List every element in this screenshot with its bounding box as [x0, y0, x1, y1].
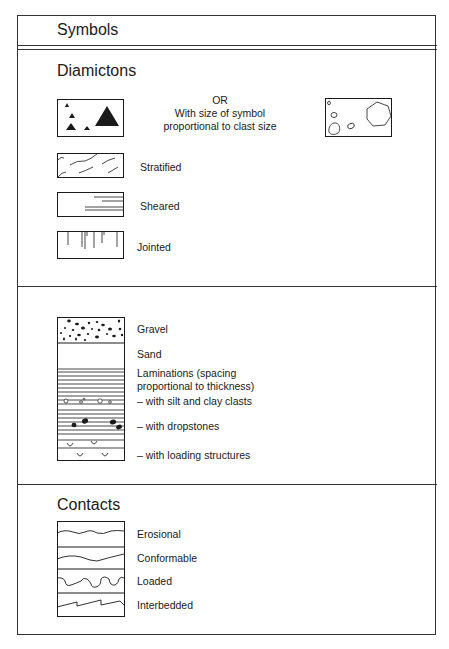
contacts-column-symbol	[57, 521, 125, 617]
header-divider-top	[17, 45, 437, 46]
contacts-title: Contacts	[57, 496, 120, 514]
or-description-line2: proportional to clast size	[140, 120, 300, 133]
or-text: OR	[140, 94, 300, 107]
silt-clay-clasts-label: – with silt and clay clasts	[137, 395, 252, 408]
dropstones-label: – with dropstones	[137, 420, 219, 433]
diamicton-triangles-symbol	[57, 99, 124, 137]
gravel-label: Gravel	[137, 323, 168, 336]
loaded-label: Loaded	[137, 575, 172, 588]
laminations-label-line2: proportional to thickness)	[137, 380, 254, 393]
or-description-line1: With size of symbol	[140, 107, 300, 120]
page-title: Symbols	[57, 21, 118, 39]
diamictons-title: Diamictons	[57, 62, 136, 80]
jointed-label: Jointed	[137, 241, 171, 254]
header-divider-bottom	[17, 49, 437, 50]
interbedded-label: Interbedded	[137, 599, 193, 612]
erosional-label: Erosional	[137, 528, 181, 541]
loading-structures-label: – with loading structures	[137, 449, 250, 462]
laminations-label-line1: Laminations (spacing	[137, 367, 236, 380]
conformable-label: Conformable	[137, 552, 197, 565]
sand-label: Sand	[137, 348, 162, 361]
section-divider-2	[17, 484, 437, 485]
stratified-label: Stratified	[140, 161, 181, 174]
lithology-column-symbol	[57, 317, 125, 462]
section-divider-1	[17, 286, 437, 287]
stratified-symbol	[57, 153, 124, 178]
diamicton-clasts-symbol	[325, 98, 392, 137]
jointed-symbol	[57, 231, 124, 259]
sheared-symbol	[57, 192, 124, 217]
sheared-label: Sheared	[140, 200, 180, 213]
